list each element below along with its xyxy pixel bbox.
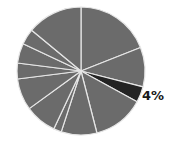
pie-chart: [0, 0, 171, 148]
slice-label-4pct: 4%: [142, 88, 164, 103]
